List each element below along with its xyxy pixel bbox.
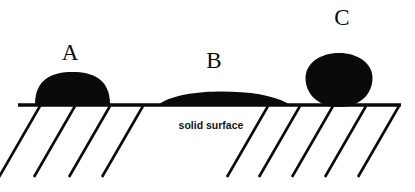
droplet-label-b: B (206, 48, 221, 73)
diagram-canvas: ABC solid surface (0, 0, 415, 192)
droplet-c (306, 53, 373, 107)
solid-surface-label: solid surface (179, 119, 244, 131)
wetting-diagram: ABC solid surface (0, 0, 415, 192)
droplet-label-a: A (62, 40, 79, 65)
droplet-label-c: C (334, 5, 349, 30)
